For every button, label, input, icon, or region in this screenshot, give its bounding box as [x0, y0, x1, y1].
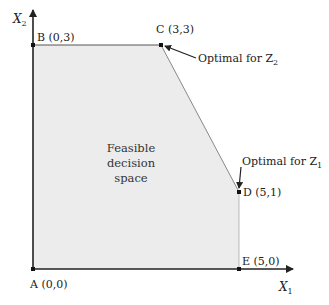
point-c-marker	[159, 43, 163, 47]
x-axis-label-sub: 1	[288, 287, 293, 296]
region-label-line-2: decision	[96, 156, 166, 171]
region-label-line-1: Feasible	[96, 141, 166, 156]
optimal-z1-label: Optimal for Z1	[242, 156, 322, 172]
point-a-label: A (0,0)	[30, 279, 68, 291]
arrow-optimal-z2	[165, 46, 196, 58]
arrow-optimal-z1	[239, 167, 241, 188]
y-axis-label-text: X	[13, 12, 22, 26]
point-e-label: E (5,0)	[242, 256, 280, 268]
point-e-marker	[237, 267, 241, 271]
point-d-marker	[237, 190, 241, 194]
x-axis-label: X1	[279, 280, 293, 296]
optimal-z1-text: Optimal for Z	[242, 155, 317, 168]
optimal-z2-label: Optimal for Z2	[198, 53, 278, 69]
point-b-label: B (0,3)	[37, 32, 75, 44]
point-d-label: D (5,1)	[243, 187, 281, 199]
y-axis-label: X2	[13, 12, 27, 28]
point-b-marker	[31, 43, 35, 47]
feasible-region-label: Feasible decision space	[96, 141, 166, 186]
optimal-z1-sub: 1	[317, 161, 322, 170]
y-axis-label-sub: 2	[22, 19, 27, 28]
optimal-z2-text: Optimal for Z	[198, 52, 273, 65]
point-c-label: C (3,3)	[156, 24, 194, 36]
point-a-marker	[31, 267, 35, 271]
x-axis-label-text: X	[279, 280, 288, 294]
optimal-z2-sub: 2	[273, 58, 278, 67]
region-label-line-3: space	[96, 171, 166, 186]
